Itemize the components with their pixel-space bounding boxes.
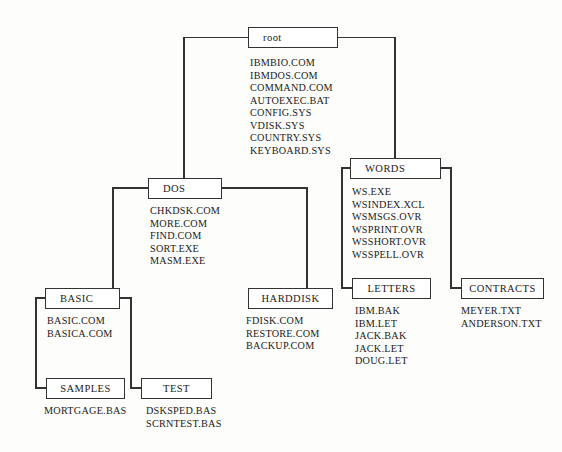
file-item: IBMBIO.COM bbox=[250, 57, 333, 70]
file-item: BACKUP.COM bbox=[246, 340, 320, 353]
node-words-label: WORDS bbox=[351, 163, 405, 174]
edge-words-contracts bbox=[441, 168, 461, 288]
file-item: RESTORE.COM bbox=[246, 328, 320, 341]
file-item: IBM.LET bbox=[355, 318, 408, 331]
file-item: ANDERSON.TXT bbox=[461, 318, 542, 331]
node-basic[interactable]: BASIC bbox=[45, 288, 120, 309]
edge-basic-samples bbox=[36, 298, 46, 388]
file-item: MEYER.TXT bbox=[461, 305, 542, 318]
edge-words-letters bbox=[342, 168, 352, 288]
file-item: IBM.BAK bbox=[355, 305, 408, 318]
edge-basic-test bbox=[120, 298, 141, 388]
file-item: WSSHORT.OVR bbox=[352, 236, 426, 249]
file-item: WS.EXE bbox=[352, 186, 426, 199]
file-item: COMMAND.COM bbox=[250, 82, 333, 95]
edge-root-dos bbox=[184, 38, 248, 179]
file-item: WSPRINT.OVR bbox=[352, 224, 426, 237]
node-contracts-label: CONTRACTS bbox=[462, 283, 543, 294]
node-samples-label: SAMPLES bbox=[47, 383, 124, 394]
file-item: SORT.EXE bbox=[150, 243, 220, 256]
node-words[interactable]: WORDS bbox=[350, 158, 441, 179]
node-root[interactable]: root bbox=[248, 27, 338, 48]
file-item: WSINDEX.XCL bbox=[352, 199, 426, 212]
file-list-basic: BASIC.COM BASICA.COM bbox=[47, 315, 113, 340]
file-item: WSMSGS.OVR bbox=[352, 211, 426, 224]
node-harddisk-label: HARDDISK bbox=[249, 293, 332, 304]
file-item: AUTOEXEC.BAT bbox=[250, 95, 333, 108]
file-item: BASIC.COM bbox=[47, 315, 113, 328]
file-item: SCRNTEST.BAS bbox=[146, 418, 222, 431]
file-item: MORTGAGE.BAS bbox=[44, 405, 126, 418]
node-letters[interactable]: LETTERS bbox=[352, 278, 431, 299]
node-dos[interactable]: DOS bbox=[148, 178, 222, 199]
file-list-dos: CHKDSK.COM MORE.COM FIND.COM SORT.EXE MA… bbox=[150, 205, 220, 268]
file-item: CONFIG.SYS bbox=[250, 107, 333, 120]
file-list-words: WS.EXE WSINDEX.XCL WSMSGS.OVR WSPRINT.OV… bbox=[352, 186, 426, 261]
file-item: JACK.BAK bbox=[355, 330, 408, 343]
file-item: MORE.COM bbox=[150, 218, 220, 231]
file-item: KEYBOARD.SYS bbox=[250, 145, 333, 158]
edge-dos-basic bbox=[113, 188, 148, 288]
node-test-label: TEST bbox=[142, 383, 211, 394]
edge-dos-harddisk bbox=[222, 188, 307, 288]
node-samples[interactable]: SAMPLES bbox=[46, 378, 125, 399]
node-harddisk[interactable]: HARDDISK bbox=[248, 288, 333, 309]
directory-tree-diagram: root IBMBIO.COM IBMDOS.COM COMMAND.COM A… bbox=[0, 0, 562, 452]
node-dos-label: DOS bbox=[149, 183, 185, 194]
file-item: MASM.EXE bbox=[150, 255, 220, 268]
file-item: CHKDSK.COM bbox=[150, 205, 220, 218]
file-list-root: IBMBIO.COM IBMDOS.COM COMMAND.COM AUTOEX… bbox=[250, 57, 333, 157]
file-item: DOUG.LET bbox=[355, 355, 408, 368]
file-list-samples: MORTGAGE.BAS bbox=[44, 405, 126, 418]
file-item: VDISK.SYS bbox=[250, 120, 333, 133]
file-list-harddisk: FDISK.COM RESTORE.COM BACKUP.COM bbox=[246, 315, 320, 353]
file-item: JACK.LET bbox=[355, 343, 408, 356]
file-item: WSSPELL.OVR bbox=[352, 249, 426, 262]
node-contracts[interactable]: CONTRACTS bbox=[461, 278, 544, 299]
file-item: FIND.COM bbox=[150, 230, 220, 243]
file-list-contracts: MEYER.TXT ANDERSON.TXT bbox=[461, 305, 542, 330]
edge-root-words bbox=[338, 38, 395, 159]
file-list-test: DSKSPED.BAS SCRNTEST.BAS bbox=[146, 405, 222, 430]
file-list-letters: IBM.BAK IBM.LET JACK.BAK JACK.LET DOUG.L… bbox=[355, 305, 408, 368]
file-item: DSKSPED.BAS bbox=[146, 405, 222, 418]
file-item: FDISK.COM bbox=[246, 315, 320, 328]
node-root-label: root bbox=[249, 32, 282, 43]
node-test[interactable]: TEST bbox=[141, 378, 212, 399]
file-item: COUNTRY.SYS bbox=[250, 132, 333, 145]
file-item: IBMDOS.COM bbox=[250, 70, 333, 83]
node-letters-label: LETTERS bbox=[353, 283, 430, 294]
file-item: BASICA.COM bbox=[47, 328, 113, 341]
node-basic-label: BASIC bbox=[46, 293, 93, 304]
